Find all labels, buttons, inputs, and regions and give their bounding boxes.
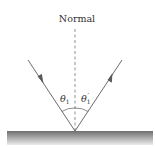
normal-label: Normal: [59, 13, 95, 24]
reflected-angle-label: θ1′: [81, 92, 91, 105]
reflection-diagram: Normal θ1 θ1′: [0, 0, 155, 148]
incident-angle-arc: [62, 108, 75, 112]
incident-ray: [28, 60, 75, 131]
incident-angle-label: θ1: [60, 93, 70, 105]
reflected-angle-arc: [75, 108, 88, 112]
reflecting-surface: [7, 131, 153, 145]
